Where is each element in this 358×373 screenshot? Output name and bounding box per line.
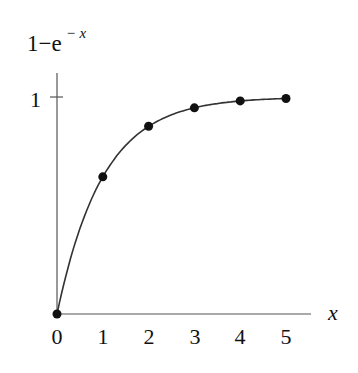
curve-line: [57, 99, 286, 315]
x-tick-label: 0: [52, 326, 63, 348]
x-tick-label: 2: [144, 326, 155, 348]
data-point: [282, 94, 291, 103]
data-point: [98, 172, 107, 181]
x-tick-label: 5: [281, 326, 292, 348]
plot-area: [0, 0, 358, 373]
x-tick-label: 1: [98, 326, 109, 348]
x-tick-label: 3: [190, 326, 201, 348]
data-point: [236, 96, 245, 105]
x-tick-label: 4: [235, 326, 246, 348]
data-point: [53, 310, 62, 319]
data-point: [190, 103, 199, 112]
y-axis-label: 1−e− x: [27, 30, 86, 55]
y-tick-label: 1: [30, 87, 41, 113]
x-axis-label: x: [328, 300, 338, 326]
data-point: [144, 122, 153, 131]
